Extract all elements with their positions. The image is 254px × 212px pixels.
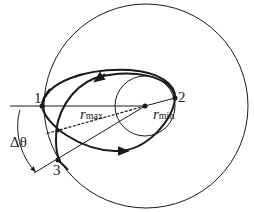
point-2-label: 2	[178, 90, 186, 105]
point-2	[173, 96, 178, 101]
focus-to-point2-line	[145, 98, 175, 106]
rmin-label: rmin	[153, 106, 174, 122]
orbit-diagram	[0, 0, 254, 212]
rmax-label: rmax	[80, 106, 103, 122]
point-3-label: 3	[53, 163, 61, 178]
rmax-intersection	[57, 130, 60, 133]
focus-point	[143, 104, 148, 109]
arc-at-point1	[42, 89, 50, 106]
delta-theta-label: Δθ	[10, 135, 27, 150]
point-1-label: 1	[34, 91, 42, 106]
